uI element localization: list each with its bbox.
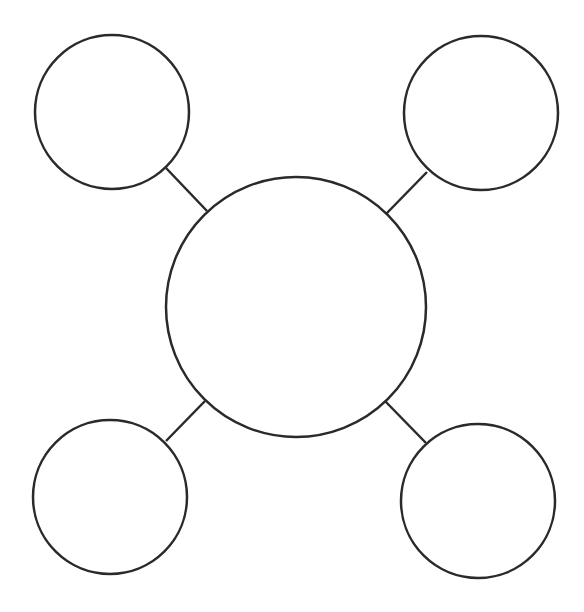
node-bottom-right <box>401 424 555 578</box>
connector-top-left-to-center <box>166 168 207 211</box>
central-node-circle <box>166 177 426 437</box>
node-bottom-left-circle <box>33 420 187 574</box>
connector-top-right-to-center <box>386 172 427 214</box>
node-bottom-left <box>33 420 187 574</box>
node-top-right <box>404 36 558 190</box>
node-top-left <box>35 35 189 189</box>
concept-map-diagram <box>0 0 584 612</box>
connector-bottom-right-to-center <box>385 401 426 443</box>
node-top-right-circle <box>404 36 558 190</box>
central-node <box>166 177 426 437</box>
node-top-left-circle <box>35 35 189 189</box>
nodes <box>33 35 558 578</box>
connector-bottom-left-to-center <box>166 401 205 441</box>
node-bottom-right-circle <box>401 424 555 578</box>
